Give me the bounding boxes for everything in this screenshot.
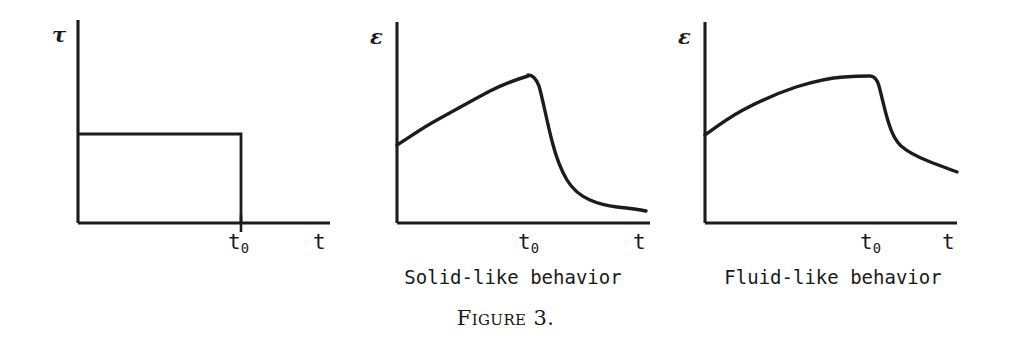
chart-panel-solid-like: ε t0 t <box>340 0 680 290</box>
y-axis-label-epsilon: ε <box>678 26 691 47</box>
solid-like-strain-curve <box>397 75 646 211</box>
subcaption-fluid-like: Fluid-like behavior <box>688 268 978 287</box>
figure-3: τ t0 t ε t0 t ε t0 t Solid-like behavior <box>0 0 1011 344</box>
x-axis-tick-label-t0: t0 <box>228 232 249 256</box>
chart-panel-fluid-like: ε t0 t <box>660 0 1000 290</box>
stress-step-curve <box>78 134 241 223</box>
x-axis-label-t: t <box>313 232 326 253</box>
fluid-like-strain-curve <box>705 76 957 172</box>
chart-panel-applied-stress: τ t0 t <box>0 0 340 290</box>
x-axis-tick-label-t0: t0 <box>860 232 881 256</box>
y-axis-label-tau: τ <box>52 24 66 45</box>
x-axis-label-t: t <box>942 232 955 253</box>
x-axis-tick-label-t0: t0 <box>518 232 539 256</box>
figure-caption: Figure 3. <box>0 308 1011 329</box>
x-axis-label-t: t <box>633 232 646 253</box>
y-axis-label-epsilon: ε <box>370 26 383 47</box>
subcaption-solid-like: Solid-like behavior <box>368 268 658 287</box>
